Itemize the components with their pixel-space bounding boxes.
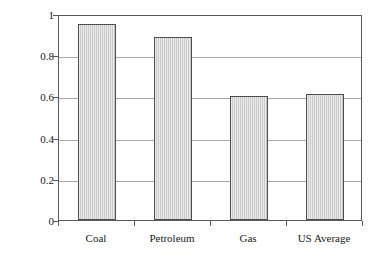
bar[interactable] — [78, 24, 116, 220]
x-axis-tick-mark — [134, 221, 135, 226]
bar[interactable] — [230, 96, 268, 220]
bar-chart: CO2 emissions, kg CO2/kWh 00.20.40.60.81… — [0, 0, 378, 257]
bar-slot — [59, 16, 135, 220]
x-axis-category-label: Coal — [58, 231, 134, 245]
x-axis-tick-mark — [362, 221, 363, 226]
x-axis-category-label: Gas — [210, 231, 286, 245]
plot-area — [58, 15, 362, 221]
x-axis-category-label: US Average — [286, 231, 362, 245]
bar-slot — [135, 16, 211, 220]
bar[interactable] — [154, 37, 192, 220]
x-axis-tick-mark — [210, 221, 211, 226]
bar[interactable] — [306, 94, 344, 220]
x-axis-tick-mark — [286, 221, 287, 226]
bar-slot — [211, 16, 287, 220]
x-axis-category-label: Petroleum — [134, 231, 210, 245]
bar-slot — [287, 16, 363, 220]
x-axis-category-labels: CoalPetroleumGasUS Average — [58, 231, 362, 247]
y-axis-tick-marks — [0, 15, 58, 221]
x-axis-tick-mark — [58, 221, 59, 226]
